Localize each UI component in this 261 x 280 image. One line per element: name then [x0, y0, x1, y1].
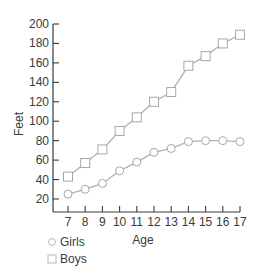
data-point — [64, 190, 72, 198]
chart-series — [64, 30, 245, 198]
legend: Girls Boys — [48, 235, 87, 266]
square-marker-icon — [48, 255, 56, 263]
x-tick-label: 13 — [165, 215, 179, 229]
data-point — [218, 39, 227, 48]
data-point — [150, 148, 158, 156]
data-point — [115, 126, 124, 135]
data-point — [98, 145, 107, 154]
x-tick-label: 11 — [131, 215, 144, 229]
x-tick-label: 17 — [233, 215, 247, 229]
legend-item-girls: Girls — [49, 235, 85, 249]
data-point — [167, 144, 175, 152]
data-point — [132, 113, 141, 122]
y-tick-label: 40 — [36, 173, 50, 187]
data-point — [167, 88, 176, 97]
y-tick-label: 180 — [29, 36, 49, 50]
y-tick-label: 200 — [29, 17, 49, 31]
x-tick-label: 12 — [147, 215, 161, 229]
data-point — [202, 137, 210, 145]
y-tick-label: 140 — [29, 75, 49, 89]
x-tick-label: 16 — [216, 215, 230, 229]
y-tick-label: 100 — [29, 114, 49, 128]
y-tick-label: 120 — [29, 95, 49, 109]
legend-label-boys: Boys — [60, 252, 87, 266]
x-tick-label: 7 — [65, 215, 72, 229]
data-point — [184, 138, 192, 146]
y-tick-label: 80 — [36, 134, 50, 148]
y-tick-label: 160 — [29, 56, 49, 70]
line-chart: 2040608010012014016018020078910111213141… — [0, 0, 261, 280]
x-axis-title: Age — [132, 233, 154, 247]
data-point — [81, 185, 89, 193]
data-point — [201, 52, 210, 61]
data-point — [98, 179, 106, 187]
x-tick-label: 10 — [113, 215, 127, 229]
data-point — [133, 158, 141, 166]
x-tick-label: 8 — [82, 215, 89, 229]
y-axis-title: Feet — [12, 111, 26, 136]
data-point — [116, 167, 124, 175]
y-tick-label: 20 — [36, 192, 50, 206]
data-point — [219, 137, 227, 145]
data-point — [184, 61, 193, 70]
data-point — [64, 172, 73, 181]
x-tick-label: 9 — [99, 215, 106, 229]
circle-marker-icon — [49, 239, 56, 246]
legend-item-boys: Boys — [48, 252, 87, 266]
x-tick-label: 14 — [182, 215, 196, 229]
legend-label-girls: Girls — [60, 235, 85, 249]
data-point — [81, 159, 90, 168]
chart-axes: 2040608010012014016018020078910111213141… — [29, 17, 247, 229]
x-tick-label: 15 — [199, 215, 213, 229]
data-point — [236, 30, 245, 39]
data-point — [236, 138, 244, 146]
data-point — [150, 97, 159, 106]
y-tick-label: 60 — [36, 153, 50, 167]
